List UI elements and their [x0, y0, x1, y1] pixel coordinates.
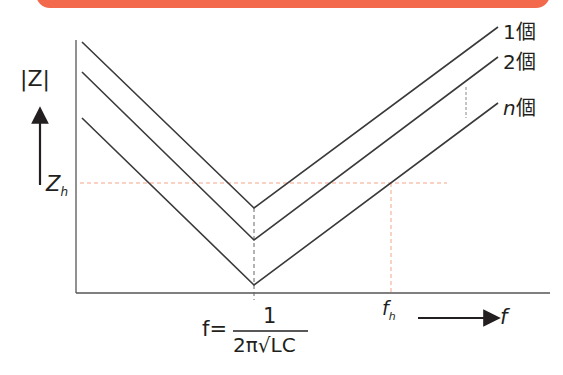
fh-label: fh — [382, 297, 396, 323]
resonance-lhs-text: f= — [202, 317, 227, 341]
resonance-lhs: f= — [202, 317, 227, 341]
curve-label-1: 1個 — [503, 16, 536, 45]
resonance-denominator: 2π√LC — [233, 333, 296, 357]
fh-main: f — [382, 297, 389, 319]
curve-label-n-count: n — [503, 96, 516, 120]
zh-main: Z — [46, 172, 60, 196]
curve-1 — [82, 27, 498, 208]
curve-label-n-suffix: 個 — [516, 96, 536, 120]
impedance-diagram — [0, 0, 563, 375]
curve-label-2: 2個 — [503, 46, 536, 75]
curve-n — [82, 103, 498, 285]
resonance-numerator: 1 — [263, 304, 276, 328]
x-axis-label: f — [500, 305, 507, 329]
zh-sub: h — [60, 185, 68, 199]
fh-sub: h — [389, 310, 396, 323]
zh-label: Zh — [46, 172, 68, 199]
y-axis-label: |Z| — [20, 66, 50, 91]
curve-label-n: n個 — [503, 92, 536, 121]
curve-2 — [82, 57, 498, 240]
